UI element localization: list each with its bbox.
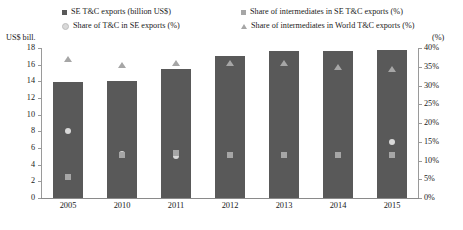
- legend-se-tc-exports[interactable]: SE T&C exports (billion US$): [62, 7, 171, 17]
- x-axis-line: [41, 198, 419, 199]
- y-axis-left-tick-label: 4: [15, 161, 35, 169]
- triangle-marker-2014[interactable]: [334, 64, 342, 70]
- y-axis-left-tick: [38, 131, 41, 132]
- square-marker-2010[interactable]: [119, 152, 125, 158]
- y-axis-right-tick: [419, 104, 422, 105]
- y-axis-right-tick-label: 10%: [424, 157, 463, 165]
- y-axis-right-tick-label: 15%: [424, 138, 463, 146]
- y-axis-right-tick: [419, 161, 422, 162]
- y-axis-right-tick: [419, 142, 422, 143]
- y-axis-left-tick: [38, 181, 41, 182]
- square-marker-2013[interactable]: [281, 152, 287, 158]
- y-axis-left-tick-label: 0: [15, 194, 35, 202]
- y-axis-right-tick-label: 25%: [424, 100, 463, 108]
- chart-legend: SE T&C exports (billion US$)Share of T&C…: [0, 0, 463, 34]
- bar-2013[interactable]: [269, 51, 299, 199]
- y-axis-right-tick: [419, 198, 422, 199]
- x-axis-label-2013: 2013: [257, 201, 311, 210]
- y-axis-right-tick-label: 20%: [424, 119, 463, 127]
- y-axis-right-tick-label: 40%: [424, 44, 463, 52]
- legend-square-marker-icon: [62, 10, 67, 15]
- triangle-marker-2010[interactable]: [118, 62, 126, 68]
- triangle-marker-2015[interactable]: [388, 66, 396, 72]
- y-axis-left-tick: [38, 115, 41, 116]
- y-axis-right-tick: [419, 86, 422, 87]
- bar-2011[interactable]: [161, 69, 191, 198]
- y-axis-left-tick-label: 14: [15, 77, 35, 85]
- legend-circle-marker-icon: [62, 23, 69, 30]
- y-axis-left-title: US$ bill.: [6, 33, 36, 42]
- y-axis-left-tick-label: 2: [15, 177, 35, 185]
- bar-2010[interactable]: [107, 81, 137, 199]
- y-axis-right-tick: [419, 123, 422, 124]
- x-axis-label-2014: 2014: [311, 201, 365, 210]
- x-axis-label-2015: 2015: [365, 201, 419, 210]
- legend-label: Share of T&C in SE exports (%): [73, 21, 180, 31]
- circle-marker-2005[interactable]: [65, 128, 71, 134]
- y-axis-left-tick-label: 18: [15, 44, 35, 52]
- legend-label: Share of intermediates in SE T&C exports…: [250, 7, 403, 17]
- x-axis-label-2011: 2011: [149, 201, 203, 210]
- y-axis-left-tick: [38, 65, 41, 66]
- bar-2015[interactable]: [377, 50, 407, 198]
- legend-triangle-marker-icon: [241, 24, 247, 29]
- y-axis-left-tick: [38, 165, 41, 166]
- y-axis-right-title: (%): [432, 33, 444, 42]
- triangle-marker-2011[interactable]: [172, 60, 180, 66]
- y-axis-left-tick: [38, 148, 41, 149]
- y-axis-left-tick: [38, 48, 41, 49]
- y-axis-left-tick: [38, 98, 41, 99]
- y-axis-right-tick: [419, 67, 422, 68]
- legend-share-tc-in-se-exports[interactable]: Share of T&C in SE exports (%): [62, 21, 180, 31]
- square-marker-2014[interactable]: [335, 152, 341, 158]
- triangle-marker-2012[interactable]: [226, 60, 234, 66]
- bar-2012[interactable]: [215, 56, 245, 198]
- x-axis-label-2010: 2010: [95, 201, 149, 210]
- y-axis-left-tick-label: 12: [15, 94, 35, 102]
- square-marker-2012[interactable]: [227, 152, 233, 158]
- x-axis-label-2005: 2005: [41, 201, 95, 210]
- legend-share-intermediates-world[interactable]: Share of intermediates in World T&C expo…: [241, 21, 414, 31]
- y-axis-right-tick: [419, 179, 422, 180]
- chart-container: SE T&C exports (billion US$)Share of T&C…: [0, 0, 463, 230]
- y-axis-left-line: [41, 48, 42, 198]
- y-axis-right-tick: [419, 48, 422, 49]
- legend-share-intermediates-se[interactable]: Share of intermediates in SE T&C exports…: [241, 7, 403, 17]
- y-axis-right-tick-label: 5%: [424, 175, 463, 183]
- y-axis-right-tick-label: 35%: [424, 63, 463, 71]
- y-axis-left-tick-label: 6: [15, 144, 35, 152]
- legend-label: SE T&C exports (billion US$): [71, 7, 171, 17]
- y-axis-left-tick: [38, 81, 41, 82]
- square-marker-2011[interactable]: [173, 150, 179, 156]
- x-axis-label-2012: 2012: [203, 201, 257, 210]
- plot-area: 18161412108642040%35%30%25%20%15%10%5%0%…: [41, 48, 419, 198]
- y-axis-right-tick-label: 0%: [424, 194, 463, 202]
- legend-label: Share of intermediates in World T&C expo…: [251, 21, 414, 31]
- triangle-marker-2005[interactable]: [64, 56, 72, 62]
- y-axis-right-tick-label: 30%: [424, 82, 463, 90]
- legend-square-marker-icon: [241, 10, 246, 15]
- circle-marker-2015[interactable]: [389, 139, 395, 145]
- square-marker-2015[interactable]: [389, 152, 395, 158]
- bar-2005[interactable]: [53, 82, 83, 198]
- bar-2014[interactable]: [323, 51, 353, 198]
- y-axis-left-tick-label: 10: [15, 111, 35, 119]
- square-marker-2005[interactable]: [65, 174, 71, 180]
- y-axis-left-tick-label: 8: [15, 127, 35, 135]
- y-axis-left-tick-label: 16: [15, 61, 35, 69]
- triangle-marker-2013[interactable]: [280, 60, 288, 66]
- y-axis-left-tick: [38, 198, 41, 199]
